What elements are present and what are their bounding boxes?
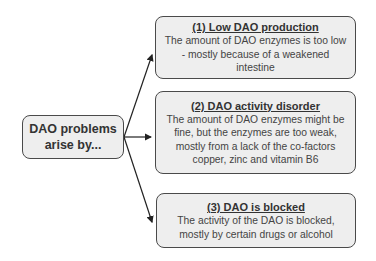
cause-description: The amount of DAO enzymes is too low - m…: [156, 34, 355, 75]
cause-description: The activity of the DAO is blocked, most…: [157, 214, 355, 241]
root-node: DAO problems arise by...: [22, 115, 124, 159]
root-label-line1: DAO problems: [23, 121, 123, 137]
cause-node-activity-disorder: (2) DAO activity disorder The amount of …: [155, 91, 356, 174]
cause-title: (1) Low DAO production: [156, 20, 355, 34]
cause-title: (3) DAO is blocked: [157, 200, 355, 214]
cause-node-blocked: (3) DAO is blocked The activity of the D…: [156, 193, 356, 248]
arrow-to-cause-1: [124, 55, 152, 137]
root-label-line2: arise by...: [23, 137, 123, 153]
cause-node-low-production: (1) Low DAO production The amount of DAO…: [155, 16, 356, 79]
cause-description: The amount of DAO enzymes might be fine,…: [156, 113, 355, 167]
arrow-to-cause-3: [124, 137, 152, 222]
cause-title: (2) DAO activity disorder: [156, 99, 355, 113]
